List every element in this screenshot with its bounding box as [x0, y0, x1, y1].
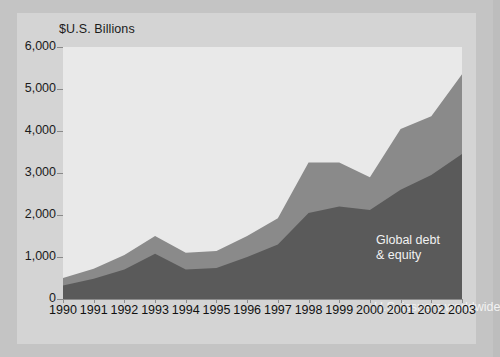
plot-area: Global debt & equity U.S. issuers worldw… [63, 47, 462, 299]
x-tick-label: 1991 [80, 303, 108, 317]
y-tick-mark [57, 257, 63, 258]
x-tick-label: 2002 [417, 303, 445, 317]
x-tick-label: 1997 [264, 303, 292, 317]
x-tick-label: 1999 [325, 303, 353, 317]
y-axis-title: $U.S. Billions [59, 22, 135, 36]
x-axis-tick-labels: 1990199119921993199419951996199719981999… [63, 303, 462, 323]
x-tick-mark [247, 299, 248, 303]
x-tick-mark [216, 299, 217, 303]
x-tick-mark [63, 299, 64, 303]
y-tick-mark [57, 215, 63, 216]
x-tick-label: 1998 [295, 303, 323, 317]
y-axis-tick-labels: 01,0002,0003,0004,0005,0006,000 [0, 0, 56, 357]
global-debt-equity-label: Global debt & equity [376, 233, 440, 263]
x-tick-label: 2001 [387, 303, 415, 317]
x-tick-mark [278, 299, 279, 303]
y-tick-mark [57, 47, 63, 48]
x-tick-mark [124, 299, 125, 303]
x-tick-mark [401, 299, 402, 303]
x-tick-mark [94, 299, 95, 303]
x-tick-label: 2003 [448, 303, 476, 317]
x-tick-label: 1993 [141, 303, 169, 317]
x-tick-label: 2000 [356, 303, 384, 317]
y-tick-label: 4,000 [25, 123, 56, 137]
x-tick-mark [309, 299, 310, 303]
x-tick-mark [155, 299, 156, 303]
y-tick-label: 1,000 [25, 249, 56, 263]
x-tick-mark [339, 299, 340, 303]
x-tick-label: 1992 [110, 303, 138, 317]
x-tick-mark [462, 299, 463, 303]
y-tick-mark [57, 89, 63, 90]
y-tick-label: 3,000 [25, 165, 56, 179]
y-tick-label: 2,000 [25, 207, 56, 221]
x-tick-label: 1996 [233, 303, 261, 317]
y-tick-label: 5,000 [25, 81, 56, 95]
x-tick-mark [370, 299, 371, 303]
y-tick-label: 6,000 [25, 39, 56, 53]
x-tick-label: 1994 [172, 303, 200, 317]
x-tick-label: 1990 [49, 303, 77, 317]
x-tick-label: 1995 [203, 303, 231, 317]
x-tick-mark [431, 299, 432, 303]
y-tick-mark [57, 173, 63, 174]
y-tick-mark [57, 131, 63, 132]
x-tick-mark [186, 299, 187, 303]
